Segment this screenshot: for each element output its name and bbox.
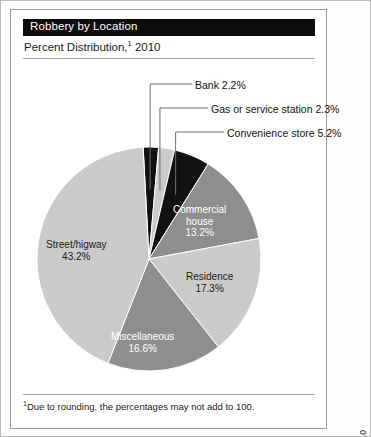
slice-label-commercial-house: Commercial house 13.2%: [173, 204, 226, 239]
callout-label-bank: Bank 2.2%: [195, 79, 246, 91]
callout-label-gas-or-service-station: Gas or service station 2.3%: [211, 103, 339, 115]
footnote-text: Due to rounding, the percentages may not…: [27, 401, 255, 412]
footnote-divider: [23, 394, 315, 395]
callout-label-convenience-store: Convenience store 5.2%: [227, 127, 341, 139]
slice-label-commercial-house-line2: house: [186, 216, 213, 227]
source-credit: Crime in the United States, 2010: [358, 430, 368, 437]
slice-label-residence: Residence 17.3%: [186, 271, 233, 294]
slice-label-miscellaneous: Miscellaneous 16.6%: [111, 331, 174, 354]
footnote: 1Due to rounding, the percentages may no…: [23, 400, 255, 412]
slice-label-street-highway: Street/higway 43.2%: [46, 239, 107, 262]
slice-value-street-highway: 43.2%: [46, 251, 107, 263]
slice-label-street-highway-line1: Street/higway: [46, 239, 107, 250]
slice-value-commercial-house: 13.2%: [173, 227, 226, 239]
slice-label-residence-line1: Residence: [186, 271, 233, 282]
slice-label-commercial-house-line1: Commercial: [173, 204, 226, 215]
slice-label-miscellaneous-line1: Miscellaneous: [111, 331, 174, 342]
slice-value-residence: 17.3%: [186, 283, 233, 295]
slice-value-miscellaneous: 16.6%: [111, 343, 174, 355]
chart-figure: Robbery by Location Percent Distribution…: [0, 0, 371, 437]
